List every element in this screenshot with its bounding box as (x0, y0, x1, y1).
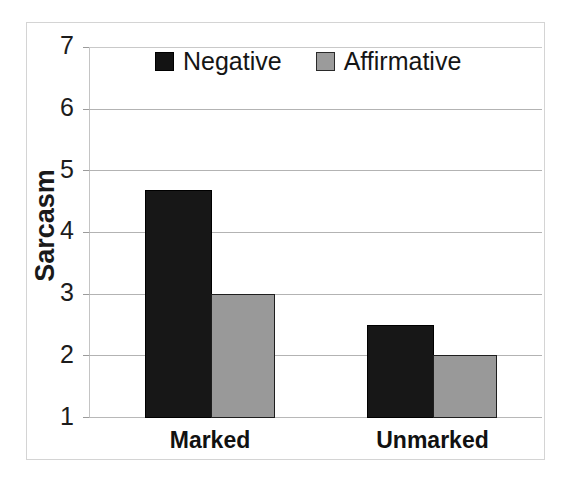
x-tick-label-marked: Marked (140, 429, 280, 452)
y-tick-label-1: 1 (60, 404, 74, 429)
legend-label-affirmative: Affirmative (344, 49, 462, 74)
y-tick-label-4: 4 (60, 218, 74, 243)
y-tick-label-3: 3 (60, 280, 74, 305)
y-axis-title: Sarcasm (30, 131, 61, 321)
scan-bottom-margin (0, 468, 570, 484)
x-tick-label-unmarked: Unmarked (350, 429, 515, 452)
legend-label-negative: Negative (183, 49, 282, 74)
legend-item-negative: Negative (155, 49, 282, 74)
chart-legend: Negative Affirmative (155, 48, 461, 74)
bar-marked-negative (145, 190, 212, 418)
bar-unmarked-affirmative (433, 355, 497, 418)
plot-area (89, 47, 542, 417)
gridline-6 (89, 109, 542, 110)
y-tick-label-6: 6 (60, 95, 74, 120)
y-tick-label-5: 5 (60, 157, 74, 182)
y-tick-label-2: 2 (60, 342, 74, 367)
y-tick-label-7: 7 (60, 33, 74, 58)
legend-item-affirmative: Affirmative (316, 49, 462, 74)
gray-square-swatch-icon (316, 52, 335, 71)
bar-chart-figure: Sarcasm 7 6 5 4 3 2 1 Marked Unmarked Ne… (0, 0, 570, 484)
gridline-5 (89, 170, 542, 171)
black-square-swatch-icon (155, 52, 174, 71)
bar-marked-affirmative (211, 294, 275, 418)
bar-unmarked-negative (367, 325, 434, 418)
